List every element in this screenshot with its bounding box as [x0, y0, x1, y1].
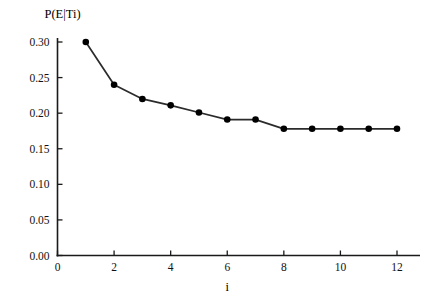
y-tick-label: 0.00	[29, 250, 49, 262]
data-point-marker	[281, 126, 288, 133]
data-point-marker	[365, 126, 372, 133]
line-chart-svg: 0.000.050.100.150.200.250.30 024681012 P…	[0, 0, 436, 301]
data-point-marker	[82, 39, 89, 46]
data-point-marker	[139, 96, 146, 103]
data-point-marker	[167, 102, 174, 109]
x-tick-label: 12	[391, 261, 403, 273]
chart-container: 0.000.050.100.150.200.250.30 024681012 P…	[0, 0, 436, 301]
data-series	[82, 39, 400, 132]
x-tick-label: 8	[281, 261, 287, 273]
data-point-marker	[196, 109, 203, 116]
y-tick-label: 0.20	[29, 107, 49, 119]
x-tick-label: 6	[224, 261, 230, 273]
data-point-marker	[252, 116, 259, 123]
x-tick-label: 2	[111, 261, 117, 273]
data-point-marker	[309, 126, 316, 133]
series-line	[86, 42, 397, 129]
data-point-marker	[111, 81, 118, 88]
data-point-marker	[394, 126, 401, 133]
data-point-marker	[224, 116, 231, 123]
y-axis-title: P(E|Ti)	[45, 7, 81, 21]
y-tick-label: 0.10	[29, 178, 49, 190]
x-tick-label: 4	[168, 261, 174, 273]
x-axis-ticks: 024681012	[55, 251, 403, 273]
y-tick-label: 0.25	[29, 72, 49, 84]
x-tick-label: 0	[55, 261, 61, 273]
x-axis-title: i	[226, 280, 230, 294]
y-tick-label: 0.30	[29, 36, 49, 48]
x-tick-label: 10	[335, 261, 347, 273]
y-tick-label: 0.15	[29, 143, 49, 155]
axes-group	[57, 38, 421, 257]
y-tick-label: 0.05	[29, 214, 49, 226]
data-point-marker	[337, 126, 344, 133]
